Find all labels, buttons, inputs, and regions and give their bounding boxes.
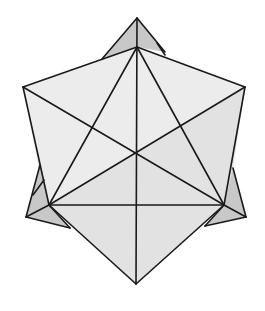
shaded-faces bbox=[23, 18, 246, 284]
stellated-octahedron-figure bbox=[0, 0, 265, 311]
